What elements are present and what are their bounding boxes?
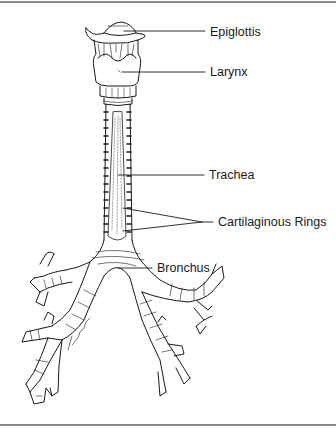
left-bronchial-tree [22, 252, 104, 404]
label-bronchus: Bronchus [157, 261, 210, 275]
carina-shape [66, 240, 160, 280]
airway-illustration [0, 0, 336, 428]
epiglottis-shape [86, 22, 146, 43]
trachea-shape [104, 104, 132, 240]
label-larynx: Larynx [210, 65, 248, 79]
label-trachea: Trachea [209, 168, 254, 182]
label-cartilaginous-rings: Cartilaginous Rings [218, 215, 326, 229]
right-bronchial-tree [130, 264, 224, 396]
label-epiglottis: Epiglottis [210, 25, 261, 39]
larynx-shape [93, 40, 140, 106]
diagram-frame: Epiglottis Larynx Trachea Cartilaginous … [0, 0, 336, 428]
